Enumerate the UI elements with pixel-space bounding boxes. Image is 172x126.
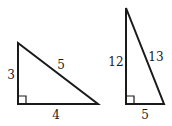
hypotenuse-label: 13 bbox=[148, 50, 163, 64]
vertical-leg-label: 3 bbox=[7, 68, 15, 82]
right-angle-marker-icon bbox=[18, 96, 26, 104]
triangle-3-4-5: 3 4 5 bbox=[7, 43, 98, 122]
triangles-diagram: 3 4 5 12 5 13 bbox=[0, 0, 172, 126]
right-angle-marker-icon bbox=[126, 96, 134, 104]
hypotenuse-label: 5 bbox=[57, 58, 65, 72]
horizontal-leg-label: 4 bbox=[52, 108, 60, 122]
horizontal-leg-label: 5 bbox=[141, 108, 149, 122]
triangle-5-12-13: 12 5 13 bbox=[108, 8, 164, 122]
vertical-leg-label: 12 bbox=[108, 55, 123, 69]
triangle-outline bbox=[18, 43, 98, 104]
